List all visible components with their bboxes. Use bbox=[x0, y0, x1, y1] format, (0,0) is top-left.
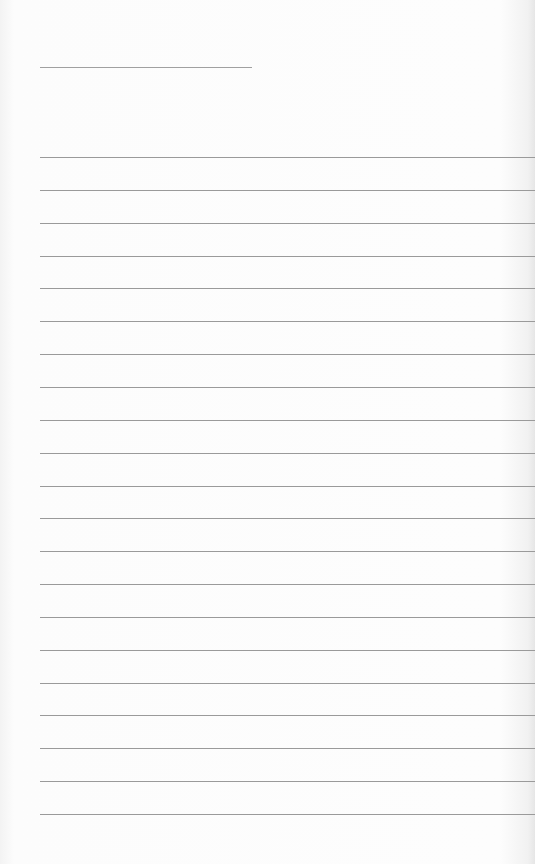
ruled-line bbox=[40, 683, 535, 684]
ruled-line bbox=[40, 486, 535, 487]
ruled-line bbox=[40, 223, 535, 224]
ruled-line bbox=[40, 617, 535, 618]
ruled-line bbox=[40, 453, 535, 454]
ruled-line bbox=[40, 715, 535, 716]
ruled-line bbox=[40, 584, 535, 585]
ruled-line bbox=[40, 387, 535, 388]
ruled-line bbox=[40, 748, 535, 749]
ruled-line bbox=[40, 190, 535, 191]
ruled-line bbox=[40, 781, 535, 782]
ruled-line bbox=[40, 420, 535, 421]
ruled-line bbox=[40, 650, 535, 651]
ruled-line bbox=[40, 256, 535, 257]
title-line bbox=[40, 67, 252, 68]
ruled-line bbox=[40, 518, 535, 519]
lined-paper-sheet bbox=[0, 0, 535, 864]
ruled-line bbox=[40, 354, 535, 355]
ruled-line bbox=[40, 288, 535, 289]
ruled-line bbox=[40, 551, 535, 552]
ruled-line bbox=[40, 157, 535, 158]
ruled-line bbox=[40, 814, 535, 815]
ruled-line bbox=[40, 321, 535, 322]
